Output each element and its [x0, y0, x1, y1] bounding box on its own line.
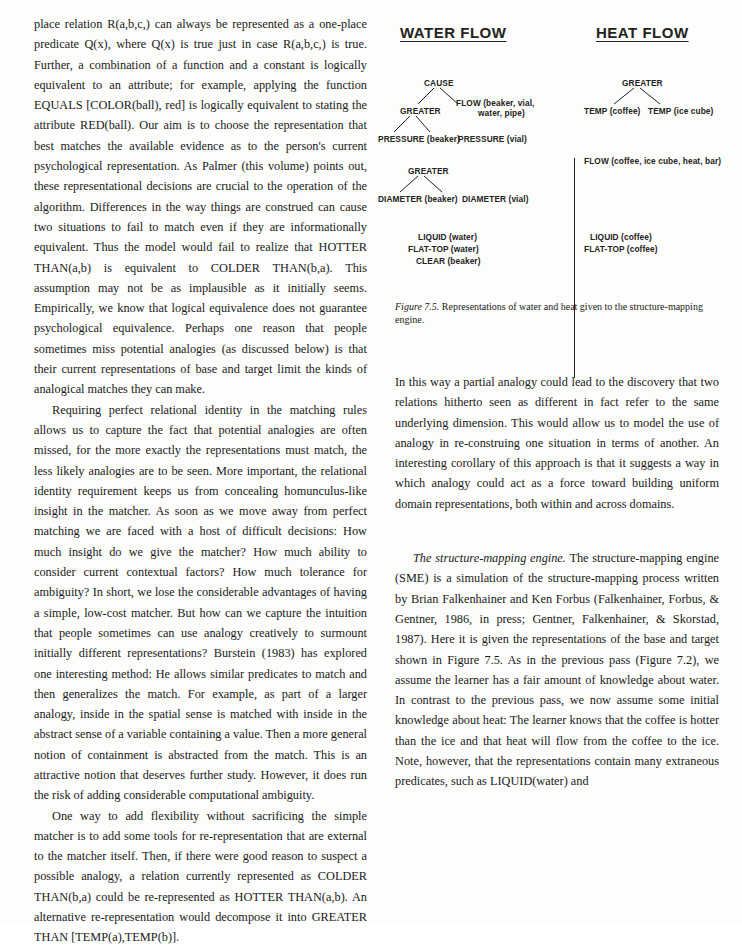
liquid-coffee-label: LIQUID (coffee)	[590, 232, 652, 242]
water-greater-2-label: GREATER	[408, 166, 449, 176]
left-text-column: place relation R(a,b,c,) can always be r…	[34, 14, 367, 948]
paragraph-sme: The structure-mapping engine. The struct…	[395, 548, 719, 792]
sme-heading: The structure-mapping engine.	[413, 551, 566, 565]
paragraph-partial-analogy: In this way a partial analogy could lead…	[395, 372, 719, 514]
liquid-water-label: LIQUID (water)	[418, 232, 477, 242]
sme-text: The structure-mapping engine (SME) is a …	[395, 551, 719, 788]
diameter-vial-label: DIAMETER (vial)	[462, 194, 529, 204]
paragraph-relational-identity: Requiring perfect relational identity in…	[34, 400, 367, 806]
flat-top-water-label: FLAT-TOP (water)	[408, 244, 479, 254]
water-greater-label: GREATER	[400, 106, 441, 116]
figure-caption: Figure 7.5. Representations of water and…	[395, 300, 715, 326]
heat-greater-label: GREATER	[622, 78, 663, 88]
heat-flow-title: HEAT FLOW	[596, 24, 689, 41]
flat-top-coffee-label: FLAT-TOP (coffee)	[584, 244, 658, 254]
clear-beaker-label: CLEAR (beaker)	[416, 256, 481, 266]
paragraph-representation: place relation R(a,b,c,) can always be r…	[34, 14, 367, 400]
caption-label: Figure 7.5.	[395, 301, 439, 312]
pressure-vial-label: PRESSURE (vial)	[458, 134, 527, 144]
water-flow-title: WATER FLOW	[400, 24, 506, 41]
figure-7-5: WATER FLOW CAUSE GREATER FLOW (beaker, v…	[378, 8, 718, 348]
diameter-beaker-label: DIAMETER (beaker)	[378, 194, 458, 204]
figure-divider	[574, 158, 575, 378]
paragraph-re-representation: One way to add flexibility without sacri…	[34, 806, 367, 948]
pressure-beaker-label: PRESSURE (beaker)	[378, 134, 460, 144]
figure-connector-lines	[378, 8, 718, 348]
right-text-column: In this way a partial analogy could lead…	[395, 372, 719, 792]
temp-ice-label: TEMP (ice cube)	[648, 106, 713, 116]
heat-flow-label: FLOW (coffee, ice cube, heat, bar)	[584, 156, 721, 166]
temp-coffee-label: TEMP (coffee)	[584, 106, 640, 116]
water-cause-label: CAUSE	[424, 78, 454, 88]
water-flow-label-2: water, pipe)	[478, 108, 525, 118]
water-flow-label: FLOW (beaker, vial,	[456, 98, 534, 108]
caption-text: Representations of water and heat given …	[395, 301, 703, 325]
